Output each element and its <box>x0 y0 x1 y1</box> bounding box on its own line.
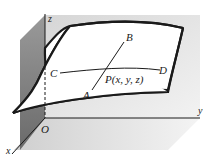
x-axis-label: x <box>5 145 11 156</box>
origin-label: O <box>41 123 49 135</box>
point-D-label: D <box>158 64 167 76</box>
surface-diagram: z y x O B C D A P(x, y, z) <box>0 0 210 161</box>
z-axis-label: z <box>47 13 52 24</box>
point-B-label: B <box>126 31 133 43</box>
point-P-label: P(x, y, z) <box>104 73 144 86</box>
y-axis-label: y <box>197 105 203 116</box>
point-C-label: C <box>50 67 58 79</box>
point-A-label: A <box>82 89 90 101</box>
